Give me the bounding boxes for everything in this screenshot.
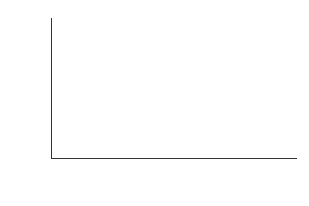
x-axis-line — [51, 158, 297, 159]
y-axis-line — [51, 18, 52, 159]
